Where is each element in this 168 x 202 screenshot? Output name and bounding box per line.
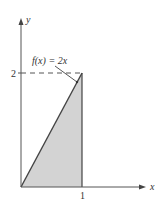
area-under-line-diagram: y x 2 1 f(x) = 2x [0, 0, 168, 202]
leader-dot [76, 81, 78, 83]
y-axis-arrow-icon [19, 18, 24, 25]
function-label: f(x) = 2x [32, 55, 68, 67]
y-axis-label: y [25, 14, 31, 25]
label-leader-line [55, 66, 77, 82]
y-tick-label: 2 [11, 68, 16, 79]
x-axis-label: x [149, 181, 155, 192]
x-tick-label: 1 [80, 190, 85, 201]
x-axis-arrow-icon [139, 185, 146, 190]
